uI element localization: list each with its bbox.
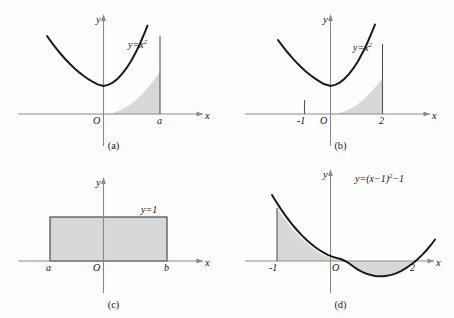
panel-c-plot <box>0 159 227 318</box>
panel-caption-a: (a) <box>0 140 227 151</box>
curve-equation-text-b: y=x <box>353 42 369 53</box>
panel-c: y x O a b y=1 (c) <box>0 159 227 318</box>
origin-label-d: O <box>332 262 339 273</box>
curve-equation-text-a: y=x <box>128 39 144 50</box>
panel-b: y x O -1 2 y=x2 (b) <box>227 0 454 159</box>
y-axis-label-a: y <box>96 14 101 25</box>
panel-caption-b: (b) <box>227 140 454 151</box>
y-axis-arrow-a <box>101 14 106 21</box>
origin-label-c: O <box>93 262 100 273</box>
xtick-label-d-1: 2 <box>410 262 415 273</box>
curve-equation-label-d: y=(x−1)2−1 <box>355 172 404 184</box>
panel-a: y x O a y=x2 (a) <box>0 0 227 159</box>
curve-equation-label-b: y=x2 <box>353 41 372 53</box>
y-axis-label-d: y <box>323 169 328 180</box>
curve-equation-exponent-a: 2 <box>144 38 147 45</box>
x-axis-label-d: x <box>436 257 441 268</box>
curve-equation-text-c: y=1 <box>141 204 157 215</box>
xtick-label-a-0: a <box>157 115 162 126</box>
y-axis-arrow-d <box>328 169 333 176</box>
x-axis-label-b: x <box>432 110 437 121</box>
y-axis-arrow-b <box>328 14 333 21</box>
xtick-label-c-1: b <box>164 262 169 273</box>
curve-equation-exponent-b: 2 <box>369 41 372 48</box>
x-axis-arrow-b <box>424 112 431 117</box>
x-axis-arrow-d <box>428 259 435 264</box>
curve-equation-tail-d: −1 <box>392 173 404 184</box>
curve-equation-text-d: y=(x−1) <box>355 173 389 184</box>
parabola-curve-a <box>47 26 148 86</box>
y-axis-label-c: y <box>96 177 101 188</box>
panel-b-plot <box>227 0 454 159</box>
panel-caption-d: (d) <box>227 299 454 310</box>
figure-grid: y x O a y=x2 (a) y x O -1 2 y=x2 ( <box>0 0 454 318</box>
x-axis-arrow-a <box>197 112 204 117</box>
origin-label-a: O <box>93 115 100 126</box>
x-axis-arrow-c <box>197 259 204 264</box>
x-axis-label-a: x <box>205 110 210 121</box>
curve-equation-label-c: y=1 <box>141 203 157 215</box>
shaded-region-c <box>50 217 167 261</box>
parabola-curve-b <box>278 25 375 87</box>
panel-a-plot <box>0 0 227 159</box>
x-axis-label-c: x <box>205 257 210 268</box>
xtick-label-b-0: -1 <box>297 115 305 126</box>
y-axis-label-b: y <box>323 14 328 25</box>
xtick-label-b-1: 2 <box>379 115 384 126</box>
origin-label-b: O <box>320 115 327 126</box>
panel-d: y x O -1 2 y=(x−1)2−1 (d) <box>227 159 454 318</box>
xtick-label-c-0: a <box>46 262 51 273</box>
curve-equation-label-a: y=x2 <box>128 38 147 50</box>
y-axis-arrow-c <box>101 177 106 184</box>
panel-d-plot <box>227 159 454 318</box>
shaded-region-d-left <box>277 208 345 261</box>
panel-caption-c: (c) <box>0 299 227 310</box>
shaded-region-a <box>104 71 161 114</box>
xtick-label-d-0: -1 <box>269 262 277 273</box>
